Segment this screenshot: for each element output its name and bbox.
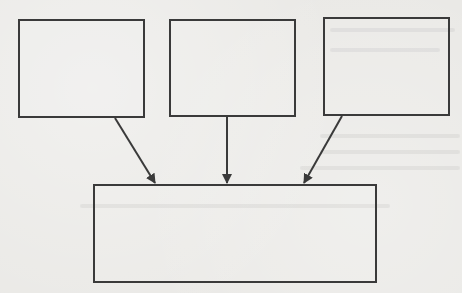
arrow-box1-to-result bbox=[115, 118, 155, 183]
arrows-layer bbox=[0, 0, 462, 293]
arrow-box3-to-result bbox=[304, 116, 342, 183]
